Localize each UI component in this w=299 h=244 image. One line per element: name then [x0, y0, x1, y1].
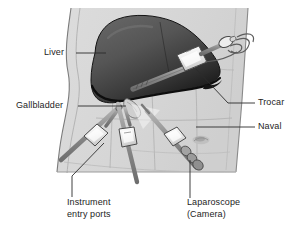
port-valve-center [119, 127, 137, 147]
label-liver: Liver [44, 47, 64, 58]
laparoscopic-surgery-diagram: Liver Gallbladder Trocar Naval Instrumen… [0, 0, 299, 244]
label-laparoscope-line1: Laparoscope [187, 197, 240, 208]
label-instrument-entry-ports-line1: Instrument [67, 197, 111, 208]
label-naval: Naval [258, 121, 282, 132]
diagram-canvas [0, 0, 299, 244]
label-instrument-entry-ports-line2: entry ports [67, 209, 111, 220]
label-laparoscope-line2: (Camera) [187, 209, 226, 220]
label-trocar: Trocar [258, 97, 284, 108]
naval-marking [193, 136, 210, 144]
label-gallbladder: Gallbladder [16, 100, 63, 111]
